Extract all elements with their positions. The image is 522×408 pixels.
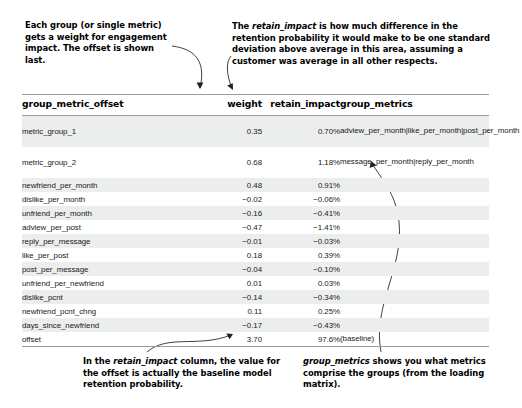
table-row[interactable]: dislike_per_month−0.02−0.06%	[22, 192, 489, 206]
cell-weight: −0.02	[202, 192, 262, 206]
cell-weight: −0.01	[202, 234, 262, 248]
cell-group-metrics	[340, 318, 489, 332]
annotation-weight-column: Each group (or single metric) gets a wei…	[25, 20, 175, 66]
annot-tr-a: The	[232, 21, 252, 31]
column-header-group-metrics[interactable]: group_metrics	[340, 95, 489, 116]
table-row[interactable]: offset3.7097.6%(baseline)	[22, 332, 489, 347]
cell-metric-name: metric_group_2	[22, 147, 202, 178]
cell-group-metrics: adview_per_month|like_per_month|post_per…	[340, 116, 489, 148]
cell-metric-name: unfriend_per_month	[22, 206, 202, 220]
cell-metric-name: offset	[22, 332, 202, 347]
column-header-retain-impact[interactable]: retain_impact	[262, 95, 340, 116]
cell-weight: 0.48	[202, 178, 262, 192]
cell-weight: 0.68	[202, 147, 262, 178]
annotation-retain-impact: The retain_impact is how much difference…	[232, 21, 522, 67]
leader-line-weight	[172, 46, 202, 88]
cell-group-metrics	[340, 220, 489, 234]
cell-group-metrics	[340, 178, 489, 192]
cell-metric-name: dislike_pcnt	[22, 290, 202, 304]
cell-group-metrics: (baseline)	[340, 332, 489, 347]
table-row[interactable]: adview_per_post−0.47−1.41%	[22, 220, 489, 234]
table-row[interactable]: dislike_pcnt−0.14−0.34%	[22, 290, 489, 304]
table-row[interactable]: like_per_post0.180.39%	[22, 248, 489, 262]
cell-retain-impact: 97.6%	[262, 332, 340, 347]
results-table-container: group_metric_offset weight retain_impact…	[22, 94, 489, 347]
cell-retain-impact: −0.43%	[262, 318, 340, 332]
cell-weight: 3.70	[202, 332, 262, 347]
cell-metric-name: post_per_message	[22, 262, 202, 276]
table-row[interactable]: days_since_newfriend−0.17−0.43%	[22, 318, 489, 332]
group-metric-offset-table: group_metric_offset weight retain_impact…	[22, 94, 489, 347]
annot-tr-line3: deviation above average in this area, as…	[232, 44, 463, 54]
cell-weight: 0.18	[202, 248, 262, 262]
cell-group-metrics	[340, 234, 489, 248]
cell-metric-name: like_per_post	[22, 248, 202, 262]
cell-retain-impact: −1.41%	[262, 220, 340, 234]
table-body: metric_group_10.350.70%adview_per_month|…	[22, 116, 489, 347]
table-row[interactable]: reply_per_message−0.01−0.03%	[22, 234, 489, 248]
annotation-retain-impact-line1: The retain_impact is how much difference…	[232, 21, 458, 31]
table-row[interactable]: metric_group_10.350.70%adview_per_month|…	[22, 116, 489, 148]
cell-group-metrics	[340, 290, 489, 304]
cell-group-metrics	[340, 304, 489, 318]
arrowhead-weight	[197, 83, 204, 89]
table-row[interactable]: post_per_message−0.04−0.10%	[22, 262, 489, 276]
cell-metric-name: metric_group_1	[22, 116, 202, 148]
cell-retain-impact: 0.25%	[262, 304, 340, 318]
cell-group-metrics: message_per_month|reply_per_month	[340, 147, 489, 178]
table-row[interactable]: unfriend_per_month−0.16−0.41%	[22, 206, 489, 220]
annot-tr-em: retain_impact	[252, 21, 316, 31]
annotation-offset-baseline: In the retain_impact column, the value f…	[83, 356, 298, 391]
annot-bl-a: In the	[83, 356, 113, 366]
cell-weight: 0.01	[202, 276, 262, 290]
cell-retain-impact: 0.03%	[262, 276, 340, 290]
table-header: group_metric_offset weight retain_impact…	[22, 95, 489, 116]
cell-weight: 0.11	[202, 304, 262, 318]
cell-retain-impact: 0.91%	[262, 178, 340, 192]
cell-weight: −0.04	[202, 262, 262, 276]
cell-metric-name: days_since_newfriend	[22, 318, 202, 332]
annot-tr-b: is how much difference in the	[316, 21, 458, 31]
cell-retain-impact: −0.10%	[262, 262, 340, 276]
cell-retain-impact: −0.03%	[262, 234, 340, 248]
cell-metric-name: adview_per_post	[22, 220, 202, 234]
cell-weight: −0.16	[202, 206, 262, 220]
arrowhead-retain-impact	[227, 83, 233, 90]
table-row[interactable]: metric_group_20.681.18%message_per_month…	[22, 147, 489, 178]
cell-metric-name: newfriend_per_month	[22, 178, 202, 192]
cell-weight: 0.35	[202, 116, 262, 148]
cell-metric-name: newfriend_pcnt_chng	[22, 304, 202, 318]
table-header-row: group_metric_offset weight retain_impact…	[22, 95, 489, 116]
cell-metric-name: reply_per_message	[22, 234, 202, 248]
table-row[interactable]: unfriend_per_newfriend0.010.03%	[22, 276, 489, 290]
table-row[interactable]: newfriend_pcnt_chng0.110.25%	[22, 304, 489, 318]
cell-retain-impact: −0.06%	[262, 192, 340, 206]
column-header-weight[interactable]: weight	[202, 95, 262, 116]
cell-weight: −0.17	[202, 318, 262, 332]
cell-weight: −0.14	[202, 290, 262, 304]
annot-tr-line2: retention probability it would make to b…	[232, 33, 490, 43]
column-header-group-metric-offset[interactable]: group_metric_offset	[22, 95, 202, 116]
cell-weight: −0.47	[202, 220, 262, 234]
cell-group-metrics	[340, 206, 489, 220]
table-row[interactable]: newfriend_per_month0.480.91%	[22, 178, 489, 192]
cell-group-metrics	[340, 248, 489, 262]
annot-bl-em: retain_impact	[113, 356, 177, 366]
cell-retain-impact: −0.34%	[262, 290, 340, 304]
cell-group-metrics	[340, 276, 489, 290]
cell-retain-impact: 0.39%	[262, 248, 340, 262]
annot-br-em: group_metrics	[303, 356, 370, 366]
cell-retain-impact: −0.41%	[262, 206, 340, 220]
cell-retain-impact: 1.18%	[262, 147, 340, 178]
cell-metric-name: unfriend_per_newfriend	[22, 276, 202, 290]
cell-group-metrics	[340, 192, 489, 206]
cell-retain-impact: 0.70%	[262, 116, 340, 148]
annotation-group-metrics: group_metrics shows you what metrics com…	[303, 356, 503, 391]
cell-group-metrics	[340, 262, 489, 276]
annot-tr-line4: customer was average in all other respec…	[232, 56, 438, 66]
cell-metric-name: dislike_per_month	[22, 192, 202, 206]
